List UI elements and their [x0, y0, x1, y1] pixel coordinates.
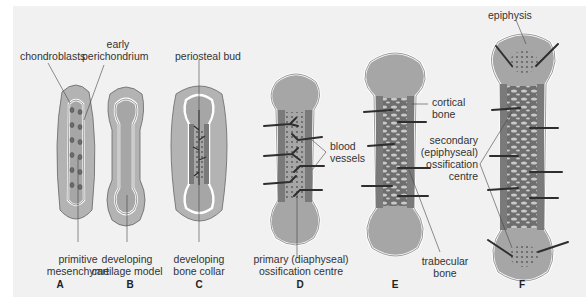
stage-a-drawing	[48, 63, 104, 242]
stage-c-drawing	[171, 60, 227, 242]
caption-e-2: bone	[420, 267, 470, 279]
label-secondary-3: ossification	[418, 158, 478, 170]
label-epiphysis: epiphysis	[488, 9, 532, 21]
stage-letter-f: F	[512, 279, 532, 290]
label-blood-vessels-2: vessels	[330, 152, 365, 164]
label-blood-vessels-1: blood	[330, 140, 356, 152]
stage-d-drawing	[264, 74, 326, 258]
caption-c-1: developing	[159, 253, 239, 265]
stage-letter-d: D	[290, 279, 310, 290]
caption-e-1: trabecular	[420, 255, 470, 267]
caption-d-2: ossification centre	[246, 265, 356, 277]
label-periosteal-bud: periosteal bud	[175, 50, 241, 62]
label-cortical-bone-2: bone	[432, 108, 455, 120]
stage-b-drawing	[107, 87, 145, 242]
label-cortical-bone-1: cortical	[432, 96, 465, 108]
caption-b-1: developing	[87, 253, 167, 265]
label-secondary-1: secondary	[424, 134, 478, 146]
caption-b-2: cartilage model	[87, 265, 167, 277]
caption-c-2: bone collar	[159, 265, 239, 277]
stage-letter-e: E	[385, 279, 405, 290]
label-chondroblasts: chondroblasts	[20, 50, 85, 62]
stage-letter-a: A	[50, 279, 70, 290]
label-secondary-4: centre	[418, 170, 478, 182]
stage-letter-c: C	[189, 279, 209, 290]
stage-f-drawing	[480, 20, 568, 281]
label-early-perichondrium-2: perichondrium	[82, 50, 149, 62]
label-secondary-2: (epiphyseal)	[418, 146, 478, 158]
stage-letter-b: B	[120, 279, 140, 290]
caption-d-1: primary (diaphyseal)	[246, 253, 356, 265]
label-early-perichondrium-1: early	[98, 38, 138, 50]
